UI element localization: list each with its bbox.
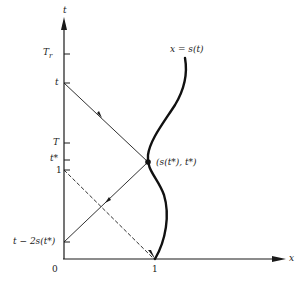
y-tick-label-tstar: t* xyxy=(50,154,58,163)
x-axis-arrow-icon xyxy=(272,256,286,262)
x-axis-label: x xyxy=(289,254,294,263)
characteristic-from-t xyxy=(64,83,148,162)
dashed-characteristic xyxy=(64,170,154,259)
intersection-point xyxy=(145,159,151,165)
y-tick-label-Tr: Tr xyxy=(43,48,52,60)
curve-label: x = s(t) xyxy=(170,45,204,54)
y-tick-label-t-minus-2s: t − 2s(t*) xyxy=(13,237,55,246)
y-tick-label-T: T xyxy=(53,138,59,147)
origin-label: 0 xyxy=(52,265,58,274)
t-axis-label: t xyxy=(63,6,67,15)
dashed-arrow-icon xyxy=(148,250,155,259)
point-label: (s(t*), t*) xyxy=(156,158,197,167)
x-tick-label-1: 1 xyxy=(152,265,158,274)
y-tick-label-t: t xyxy=(55,78,59,87)
y-ticks xyxy=(64,54,70,242)
y-tick-label-1: 1 xyxy=(56,166,62,175)
t-axis-arrow-icon xyxy=(61,17,67,30)
